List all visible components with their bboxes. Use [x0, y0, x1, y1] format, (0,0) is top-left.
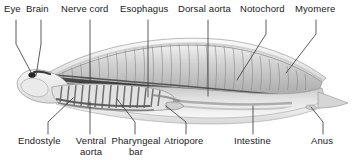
label-dorsal-aorta: Dorsal aorta [178, 4, 231, 15]
lancelet-body [17, 38, 348, 124]
leader-brain [36, 20, 41, 76]
anatomy-figure: Eye Brain Nerve cord Esophagus Dorsal ao… [0, 0, 352, 160]
label-pharyngeal-bar-line1: Pharyngeal [111, 135, 160, 146]
label-intestine: Intestine [234, 136, 271, 147]
label-pharyngeal-bar: Pharyngeal bar [109, 136, 163, 157]
label-notochord: Notochord [240, 4, 285, 15]
label-endostyle: Endostyle [18, 136, 61, 147]
label-ventral-aorta: Ventral aorta [70, 136, 112, 157]
leader-anus [311, 107, 323, 134]
label-atriopore: Atriopore [164, 136, 203, 147]
label-brain: Brain [26, 4, 49, 15]
leader-eye [16, 20, 33, 76]
label-anus: Anus [311, 136, 333, 147]
label-esophagus: Esophagus [120, 4, 168, 15]
label-nerve-cord: Nerve cord [61, 4, 108, 15]
label-eye: Eye [4, 4, 21, 15]
label-pharyngeal-bar-line2: bar [129, 146, 143, 157]
eye-spot [29, 72, 36, 77]
label-ventral-aorta-line1: Ventral [76, 135, 106, 146]
label-myomere: Myomere [295, 4, 335, 15]
tail-tip [318, 92, 348, 108]
label-ventral-aorta-line2: aorta [80, 146, 102, 157]
